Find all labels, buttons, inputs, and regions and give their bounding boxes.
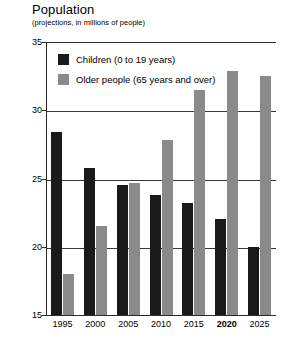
legend-swatch-children: [58, 54, 69, 65]
x-axis: 1995200020052010201520202025: [46, 319, 276, 335]
population-bar-chart: Population (projections, in millions of …: [0, 0, 286, 356]
x-axis-tick-label: 2010: [151, 319, 171, 330]
y-axis: 1520253035: [12, 42, 42, 315]
y-axis-tick-label: 30: [16, 106, 42, 115]
x-axis-tick-label: 2005: [118, 319, 138, 330]
bar-older-people-1995: [63, 274, 74, 315]
x-axis-tick-label: 2020: [217, 319, 237, 330]
x-axis-tick-label: 2000: [85, 319, 105, 330]
bar-children-2000: [84, 168, 95, 315]
bar-children-2005: [117, 185, 128, 315]
legend-swatch-older-people: [58, 74, 69, 85]
bar-older-people-2000: [96, 226, 107, 315]
bar-children-2015: [182, 203, 193, 315]
bar-older-people-2020: [227, 71, 238, 315]
bar-children-2025: [248, 247, 259, 315]
y-axis-tick-label: 35: [16, 38, 42, 47]
x-axis-line: [46, 315, 276, 316]
legend-item: Children (0 to 19 years): [58, 51, 268, 67]
bar-children-2010: [150, 195, 161, 315]
y-axis-tick-label: 15: [16, 311, 42, 320]
bar-older-people-2010: [162, 140, 173, 315]
bar-older-people-2025: [260, 76, 271, 315]
legend-label-children: Children (0 to 19 years): [76, 54, 175, 65]
y-axis-tick-label: 20: [16, 243, 42, 252]
chart-legend: Children (0 to 19 years) Older people (6…: [58, 51, 268, 91]
chart-title: Population: [32, 3, 282, 17]
legend-label-older-people: Older people (65 years and over): [76, 74, 215, 85]
bar-children-1995: [51, 132, 62, 315]
legend-item: Older people (65 years and over): [58, 71, 268, 87]
x-axis-tick-label: 2025: [250, 319, 270, 330]
x-axis-tick-label: 2015: [184, 319, 204, 330]
y-axis-tick-label: 25: [16, 175, 42, 184]
x-axis-tick-label: 1995: [52, 319, 72, 330]
bar-older-people-2005: [129, 183, 140, 315]
chart-subtitle: (projections, in millions of people): [32, 18, 282, 27]
bar-older-people-2015: [194, 90, 205, 315]
bar-children-2020: [215, 219, 226, 315]
chart-title-block: Population (projections, in millions of …: [32, 3, 282, 27]
